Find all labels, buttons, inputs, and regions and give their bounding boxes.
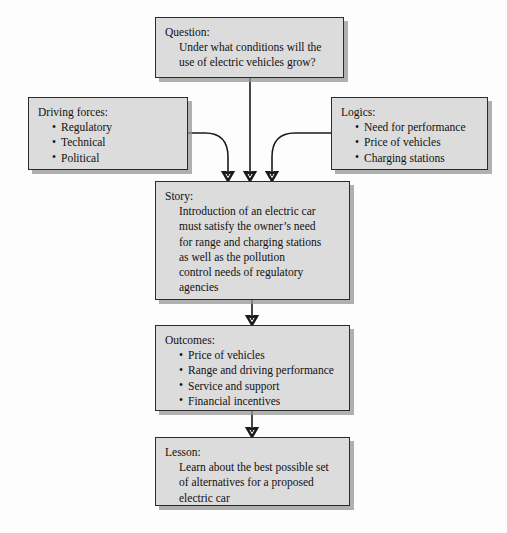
node-question-line: use of electric vehicles grow? [179,55,343,70]
list-item: Technical [52,135,187,150]
node-story-line: as well as the pollution [179,250,349,265]
node-story-line: must satisfy the owner’s need [179,219,349,234]
list-item: Price of vehicles [355,135,487,150]
node-lesson-body: Learn about the best possible set of alt… [165,460,349,506]
node-story[interactable]: Story: Introduction of an electric car m… [155,181,350,300]
node-story-line: for range and charging stations [179,235,349,250]
edge-logics-to-story [272,133,331,176]
node-story-body: Introduction of an electric car must sat… [165,204,349,295]
edge-driving-forces-to-story [188,133,228,176]
node-question-label: Question: [165,25,343,40]
node-outcomes[interactable]: Outcomes: Price of vehicles Range and dr… [155,325,350,411]
list-item: Range and driving performance [179,363,349,378]
node-logics-list: Need for performance Price of vehicles C… [341,120,487,166]
list-item: Charging stations [355,151,487,166]
node-story-label: Story: [165,189,349,204]
node-story-line: Introduction of an electric car [179,204,349,219]
node-story-line: control needs of regulatory [179,265,349,280]
node-driving-forces[interactable]: Driving forces: Regulatory Technical Pol… [28,97,188,170]
node-outcomes-list: Price of vehicles Range and driving perf… [165,348,349,409]
list-item: Service and support [179,379,349,394]
diagram-canvas: Question: Under what conditions will the… [0,0,507,533]
node-question-body: Under what conditions will the use of el… [165,40,343,70]
node-outcomes-label: Outcomes: [165,333,349,348]
list-item: Need for performance [355,120,487,135]
node-story-line: agencies [179,280,349,295]
list-item: Political [52,151,187,166]
list-item: Price of vehicles [179,348,349,363]
node-lesson-label: Lesson: [165,445,349,460]
node-lesson-line: Learn about the best possible set [179,460,349,475]
node-driving-forces-list: Regulatory Technical Political [38,120,187,166]
node-question[interactable]: Question: Under what conditions will the… [155,17,344,78]
node-lesson-line: of alternatives for a proposed [179,475,349,490]
list-item: Regulatory [52,120,187,135]
node-logics-label: Logics: [341,105,487,120]
node-lesson-line: electric car [179,491,349,506]
node-logics[interactable]: Logics: Need for performance Price of ve… [331,97,488,170]
node-lesson[interactable]: Lesson: Learn about the best possible se… [155,437,350,506]
node-driving-forces-label: Driving forces: [38,105,187,120]
node-question-line: Under what conditions will the [179,40,343,55]
list-item: Financial incentives [179,394,349,409]
